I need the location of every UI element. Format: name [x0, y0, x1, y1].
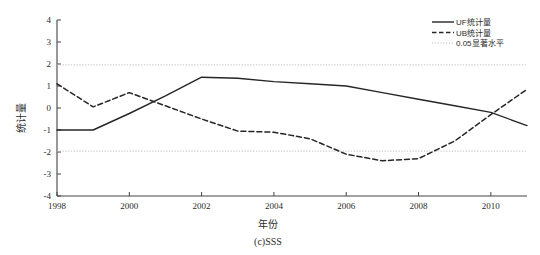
legend-label: UB统计量	[456, 28, 491, 38]
x-tick-label: 1998	[48, 201, 67, 211]
legend-label: UF统计量	[456, 17, 491, 27]
figure-caption: (c)SSS	[254, 236, 282, 248]
y-tick-label: 4	[47, 15, 52, 25]
y-tick-label: 2	[47, 59, 52, 69]
y-tick-label: 0	[47, 103, 52, 113]
y-tick-label: 3	[47, 37, 52, 47]
y-tick-label: -1	[44, 125, 52, 135]
y-axis-title: 统计量	[15, 103, 27, 133]
x-tick-label: 2008	[410, 201, 429, 211]
x-tick-label: 2004	[265, 201, 284, 211]
mann-kendall-chart: 43210-1-2-3-4 19982000200220042006200820…	[0, 0, 540, 255]
y-tick-label: -3	[44, 169, 52, 179]
x-tick-label: 2000	[120, 201, 139, 211]
y-tick-label: -4	[44, 191, 52, 201]
x-tick-label: 2002	[193, 201, 211, 211]
x-tick-label: 2006	[337, 201, 356, 211]
x-tick-label: 2010	[482, 201, 501, 211]
y-tick-label: 1	[47, 81, 52, 91]
y-tick-label: -2	[44, 147, 52, 157]
x-axis-title: 年份	[258, 218, 278, 230]
legend-label: 0.05显著水平	[456, 38, 504, 48]
